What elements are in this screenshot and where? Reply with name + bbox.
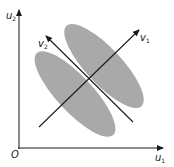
origin-label: O: [11, 149, 19, 160]
v1-label: v1: [140, 32, 150, 44]
pca-diagram: u2 O u1 v1 v2: [0, 0, 174, 167]
v2-label: v2: [38, 38, 48, 50]
x-axis-label: u1: [155, 152, 165, 164]
y-axis-label: u2: [6, 10, 16, 22]
